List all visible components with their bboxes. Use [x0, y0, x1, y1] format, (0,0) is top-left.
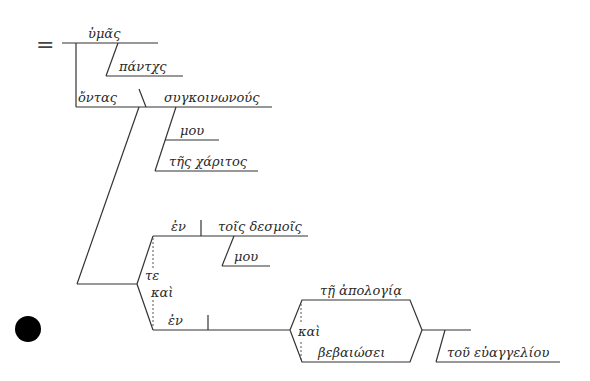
word-mou-1: μου — [180, 123, 204, 138]
word-tou-euangeliou: τοῦ εὐαγγελίου — [447, 345, 549, 360]
word-tois-desmois: τοῖς δεσμοῖς — [218, 219, 303, 234]
word-bebaiosei: βεβαιώσει — [317, 345, 385, 360]
word-pantas: πάντχς — [118, 59, 167, 74]
word-kai-1: καὶ — [150, 285, 173, 300]
word-mou-2: μου — [234, 249, 258, 264]
word-hymas: ὑμᾶς — [88, 26, 121, 41]
word-te: τε — [145, 268, 159, 283]
word-ontas: ὄντας — [78, 90, 118, 105]
bullet-marker — [15, 316, 41, 342]
predicate-divider — [139, 89, 146, 107]
word-te-apologia: τῇ ἀπολογίᾳ — [320, 283, 402, 299]
sentence-diagram: = ὑμᾶς πάντχς ὄντας συγκοινωνούς μου τῆς… — [0, 0, 590, 381]
word-synkoinonous: συγκοινωνούς — [164, 90, 260, 105]
euangeliou-slant — [436, 330, 445, 362]
word-kai-2: καὶ — [297, 324, 320, 339]
equals-sign: = — [36, 32, 54, 57]
word-en-2: ἐν — [168, 313, 183, 328]
word-en-1: ἐν — [171, 219, 186, 234]
long-slant — [77, 107, 139, 284]
mou2-slant — [222, 236, 234, 266]
word-tes-charitos: τῆς χάριτος — [169, 154, 248, 169]
pantas-slant — [106, 43, 118, 76]
